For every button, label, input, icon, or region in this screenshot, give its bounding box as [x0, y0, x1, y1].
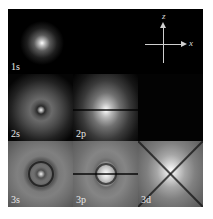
orbital-label: 3s: [11, 195, 20, 205]
nodal-plane: [73, 173, 138, 175]
x-axis-label: x: [189, 39, 193, 48]
orbital-label: 2p: [76, 129, 86, 139]
x-arrow-icon: [181, 41, 187, 47]
orbital-2s: 2s: [8, 74, 73, 141]
orbital-label: 1s: [11, 62, 20, 72]
orbital-3d: 3d: [138, 141, 203, 207]
orbital-label: 3d: [141, 195, 151, 205]
empty-cell: [73, 9, 138, 74]
axes-indicator: z x: [138, 9, 203, 74]
radial-node-ring: [28, 161, 54, 187]
orbital-1s: 1s: [8, 9, 73, 74]
orbital-label: 3p: [76, 195, 86, 205]
orbital-grid: 1s z x 2s 2p 3s 3p 3d: [8, 9, 203, 207]
orbital-label: 2s: [11, 129, 20, 139]
orbital-3s: 3s: [8, 141, 73, 207]
z-axis-label: z: [162, 12, 166, 21]
z-arrow-icon: [160, 22, 166, 28]
orbital-2p: 2p: [73, 74, 138, 141]
x-axis-line: [145, 44, 183, 45]
orbital-3p: 3p: [73, 141, 138, 207]
nodal-plane: [73, 109, 138, 111]
dark-cell: [138, 74, 203, 141]
